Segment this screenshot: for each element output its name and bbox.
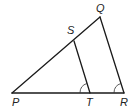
segment-qr	[100, 17, 124, 93]
label-t: T	[86, 96, 94, 108]
label-r: R	[120, 96, 128, 108]
segment-st	[74, 41, 90, 93]
label-q: Q	[96, 2, 105, 14]
angle-mark-r	[114, 83, 121, 93]
label-s: S	[67, 24, 75, 36]
angle-mark-t	[80, 83, 87, 93]
label-p: P	[12, 96, 20, 108]
geometry-diagram: P Q R S T	[0, 0, 135, 112]
